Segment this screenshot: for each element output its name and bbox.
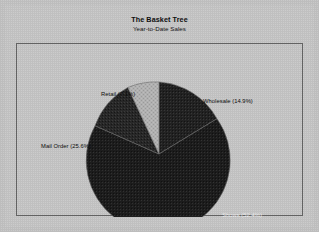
chart-page: The Basket Tree Year-to-Date Sales [0, 0, 319, 232]
title-block: The Basket Tree Year-to-Date Sales [5, 15, 314, 33]
pie-label-retail: Retail (7.1%) [101, 91, 135, 97]
chart-paper: The Basket Tree Year-to-Date Sales [5, 5, 314, 227]
chart-title: The Basket Tree [5, 15, 314, 24]
pie-chart-graphic [17, 44, 304, 217]
plot-frame: Retail (7.1%) Wholesale (14.9%) Mail Ord… [16, 43, 303, 216]
pie-label-wholesale: Wholesale (14.9%) [203, 98, 253, 104]
chart-subtitle: Year-to-Date Sales [5, 25, 314, 33]
pie-label-mail-order: Mail Order (25.6%) [41, 143, 91, 149]
pie-label-shows: Shows (52.4%) [222, 212, 262, 218]
